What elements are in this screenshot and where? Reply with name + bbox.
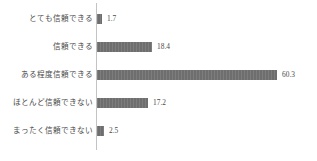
bar-row: まったく信頼できない 2.5 (0, 117, 317, 145)
bar-value-label: 2.5 (109, 127, 118, 134)
bar-track: 18.4 (97, 42, 152, 52)
bar-value-label: 60.3 (282, 71, 295, 78)
bar-chart: とても信頼できる 1.7 信頼できる 18.4 ある程度信頼できる 60.3 ほ… (0, 0, 317, 161)
category-label: まったく信頼できない (13, 127, 93, 135)
bar-track: 60.3 (97, 70, 277, 80)
bar-row: ある程度信頼できる 60.3 (0, 61, 317, 89)
bar-track: 1.7 (97, 14, 102, 24)
bar-value-label: 18.4 (157, 43, 170, 50)
bar-row: 信頼できる 18.4 (0, 33, 317, 61)
category-label: とても信頼できる (29, 15, 93, 23)
bar (97, 42, 152, 52)
category-label: ある程度信頼できる (21, 71, 93, 79)
bar (97, 98, 148, 108)
bar-value-label: 1.7 (107, 15, 116, 22)
bar-track: 2.5 (97, 126, 104, 136)
category-label: ほとんど信頼できない (13, 99, 93, 107)
bar-value-label: 17.2 (153, 99, 166, 106)
category-label: 信頼できる (53, 43, 93, 51)
bar-track: 17.2 (97, 98, 148, 108)
bar-row: とても信頼できる 1.7 (0, 5, 317, 33)
bar-row: ほとんど信頼できない 17.2 (0, 89, 317, 117)
bar (97, 70, 277, 80)
bar (97, 14, 102, 24)
bar (97, 126, 104, 136)
